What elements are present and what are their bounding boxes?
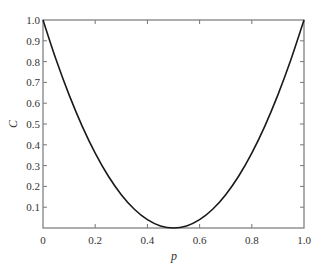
y-tick-label: 0.8 <box>26 56 40 68</box>
y-tick-label: 0.7 <box>26 76 40 88</box>
y-tick-label: 0.5 <box>26 118 40 130</box>
x-tick-label: 1.0 <box>297 234 311 246</box>
y-tick-label: 1.0 <box>26 14 40 26</box>
y-tick-label: 0.4 <box>26 139 40 151</box>
y-axis-label: C <box>6 119 20 128</box>
x-tick-label: 0.2 <box>88 234 102 246</box>
x-tick-label: 0.8 <box>245 234 259 246</box>
chart: 00.20.40.60.81.0 0.10.20.30.40.50.60.70.… <box>0 0 325 266</box>
y-tick-label: 0.1 <box>26 201 40 213</box>
x-tick-label: 0.6 <box>193 234 207 246</box>
data-curve <box>43 20 304 228</box>
plot-frame <box>43 20 304 228</box>
x-tick-label: 0 <box>40 234 46 246</box>
x-tick-label: 0.4 <box>141 234 155 246</box>
y-tick-label: 0.6 <box>26 97 40 109</box>
y-tick-labels: 0.10.20.30.40.50.60.70.80.91.0 <box>26 14 40 213</box>
y-tick-label: 0.9 <box>26 35 40 47</box>
x-tick-labels: 00.20.40.60.81.0 <box>40 234 311 246</box>
y-tick-label: 0.2 <box>26 180 40 192</box>
y-tick-label: 0.3 <box>26 160 40 172</box>
x-axis-label: p <box>170 249 177 263</box>
axis-ticks <box>43 20 304 228</box>
